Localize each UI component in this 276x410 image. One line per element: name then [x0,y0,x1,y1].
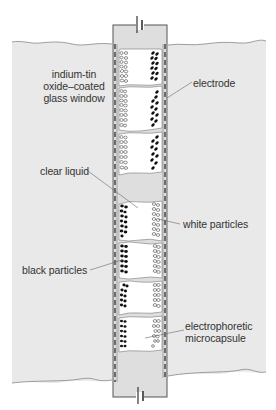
glass-window-label-line3: glass window [38,92,110,104]
glass-window-label: indium-tin oxide–coated glass window [38,68,110,104]
black-particles-label: black particles [22,264,87,276]
microcapsule-label-line2: microcapsule [185,332,252,344]
white-particles-label: white particles [183,218,248,230]
electrode-label: electrode [193,77,235,89]
glass-window-label-line1: indium-tin [38,68,110,80]
glass-window-label-line2: oxide–coated [38,80,110,92]
clear-liquid-label: clear liquid [40,165,89,177]
electrophoretic-display-diagram [0,0,276,410]
microcapsule-label: electrophoretic microcapsule [185,320,252,344]
microcapsule-label-line1: electrophoretic [185,320,252,332]
